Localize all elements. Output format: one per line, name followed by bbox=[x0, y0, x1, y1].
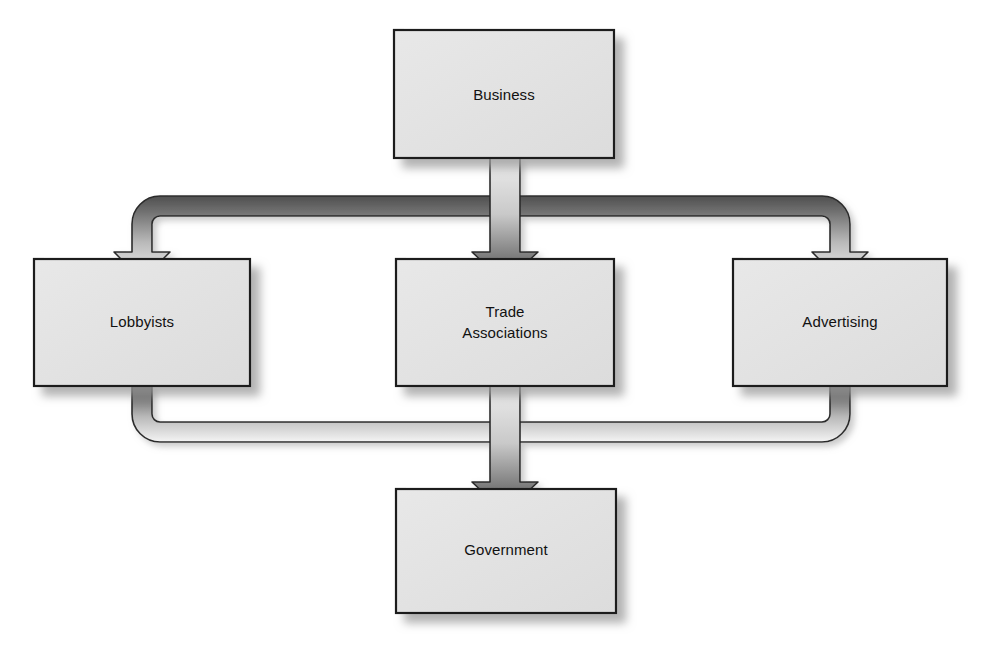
node-business-label: Business bbox=[473, 86, 535, 103]
node-advertising-label: Advertising bbox=[802, 313, 877, 330]
node-business[interactable]: Business bbox=[394, 30, 614, 158]
node-government[interactable]: Government bbox=[396, 489, 616, 613]
node-lobbyists-label: Lobbyists bbox=[110, 313, 174, 330]
connector-lobbyists-to-government bbox=[132, 386, 504, 442]
diagram-canvas: Business Lobbyists Trade Associations Ad… bbox=[0, 0, 991, 653]
node-trade-associations-label-line1: Trade bbox=[485, 303, 524, 320]
node-trade-associations-box[interactable] bbox=[396, 259, 614, 386]
node-trade-associations-label-line2: Associations bbox=[462, 324, 547, 341]
node-trade-associations[interactable]: Trade Associations bbox=[396, 259, 614, 386]
node-government-label: Government bbox=[464, 541, 548, 558]
connector-advertising-to-government bbox=[504, 386, 850, 442]
flow-diagram: Business Lobbyists Trade Associations Ad… bbox=[0, 0, 991, 653]
node-lobbyists[interactable]: Lobbyists bbox=[34, 259, 250, 386]
node-advertising[interactable]: Advertising bbox=[733, 259, 947, 386]
